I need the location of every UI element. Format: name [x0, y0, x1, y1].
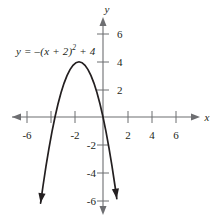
- coordinate-plane: -6 -2 2 4 6 x 6 4 2 -2 -4 -6 y: [0, 0, 218, 219]
- equation-tail: + 4: [76, 45, 95, 57]
- curve-left-arrow-icon: [38, 193, 45, 203]
- y-axis: 6 4 2 -2 -4 -6 y: [87, 3, 123, 215]
- equation-main: y = –(x + 2): [16, 45, 72, 57]
- y-tick-label-2: 2: [117, 84, 123, 96]
- x-tick-label--2: -2: [70, 129, 79, 141]
- x-tick-label-2: 2: [125, 129, 131, 141]
- x-tick-label-6: 6: [173, 129, 179, 141]
- curve-right-arrow-icon: [112, 188, 119, 198]
- y-axis-label: y: [104, 3, 110, 15]
- equation-annotation: y = –(x + 2)2 + 4: [16, 43, 96, 57]
- x-tick-label-4: 4: [149, 129, 155, 141]
- x-axis: -6 -2 2 4 6 x: [12, 111, 210, 141]
- y-axis-bottom-arrow-icon: [100, 206, 107, 215]
- y-tick-label-6: 6: [117, 28, 123, 40]
- x-axis-right-arrow-icon: [191, 114, 200, 121]
- x-tick-label--6: -6: [22, 129, 32, 141]
- graph-figure: -6 -2 2 4 6 x 6 4 2 -2 -4 -6 y: [0, 0, 218, 219]
- y-axis-top-arrow-icon: [100, 17, 107, 26]
- y-tick-label-4: 4: [117, 56, 123, 68]
- x-axis-label: x: [204, 111, 210, 123]
- y-tick-label--4: -4: [87, 167, 97, 179]
- y-tick-label--2: -2: [87, 139, 96, 151]
- y-tick-label--6: -6: [87, 195, 97, 207]
- x-axis-left-arrow-icon: [12, 114, 21, 121]
